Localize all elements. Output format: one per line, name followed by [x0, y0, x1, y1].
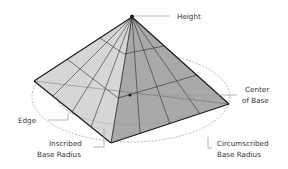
- label-center-line2: of Base: [242, 96, 269, 105]
- label-circumscribed-line2: Base Radius: [217, 150, 261, 159]
- pyramid-diagram: Height Center of Base Edge Inscribed Bas…: [0, 0, 288, 169]
- label-center-line1: Center: [245, 85, 269, 94]
- label-inscribed-line1: Inscribed: [49, 139, 82, 148]
- label-circumscribed-line1: Circumscribed: [217, 139, 269, 148]
- label-inscribed-line2: Base Radius: [37, 150, 81, 159]
- label-edge: Edge: [18, 116, 37, 125]
- label-height: Height: [177, 12, 201, 21]
- center-of-base-point: [128, 93, 131, 96]
- apex-point: [130, 15, 134, 19]
